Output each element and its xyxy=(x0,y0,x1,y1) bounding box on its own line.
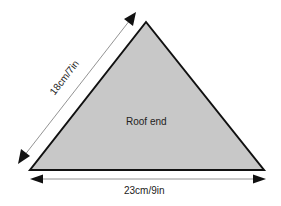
roof-end-label: Roof end xyxy=(126,116,167,127)
base-dimension-label: 23cm/9in xyxy=(124,185,165,196)
base-dimension-arrow xyxy=(30,175,266,184)
roof-end-diagram xyxy=(0,0,281,206)
roof-end-triangle xyxy=(30,22,264,170)
